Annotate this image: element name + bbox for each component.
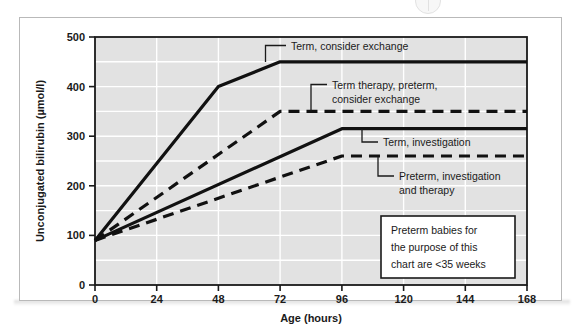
y-tick-label-500: 500 — [67, 31, 85, 43]
y-axis-title: Unconjugated bilirubin (µmol/l) — [34, 80, 46, 242]
x-tick-label-96: 96 — [336, 293, 348, 305]
annotation-label: Term, investigation — [383, 136, 471, 148]
bilirubin-threshold-chart: 500 400 300 200 100 0 Unconjugated bilir… — [0, 0, 582, 336]
annotation-label-line2: consider exchange — [332, 93, 420, 105]
x-tick-label-24: 24 — [151, 293, 164, 305]
x-tick-label-120: 120 — [394, 293, 412, 305]
figure-container: 500 400 300 200 100 0 Unconjugated bilir… — [0, 0, 582, 336]
annotation-label: Term, consider exchange — [291, 40, 408, 52]
note-box-line2: the purpose of this — [391, 241, 477, 253]
note-box: Preterm babies for the purpose of this c… — [381, 216, 515, 278]
y-tick-label-400: 400 — [67, 81, 85, 93]
x-tick-label-72: 72 — [274, 293, 286, 305]
annotation-label-line1: Term therapy, preterm, — [332, 79, 437, 91]
y-tick-label-0: 0 — [79, 279, 85, 291]
x-tick-label-144: 144 — [456, 293, 475, 305]
x-tick-label-168: 168 — [518, 293, 536, 305]
x-tick-label-48: 48 — [212, 293, 224, 305]
annotation-label-line1: Preterm, investigation — [399, 170, 501, 182]
note-box-line3: chart are <35 weeks — [391, 258, 486, 270]
y-tick-label-100: 100 — [67, 229, 85, 241]
annotation-label-line2: and therapy — [399, 184, 455, 196]
note-box-line1: Preterm babies for — [391, 224, 478, 236]
y-tick-label-300: 300 — [67, 130, 85, 142]
y-axis: 500 400 300 200 100 0 — [67, 31, 95, 291]
y-tick-label-200: 200 — [67, 180, 85, 192]
x-axis: 0 24 48 72 96 120 144 168 — [92, 285, 536, 305]
x-axis-title: Age (hours) — [280, 312, 342, 324]
x-tick-label-0: 0 — [92, 293, 98, 305]
